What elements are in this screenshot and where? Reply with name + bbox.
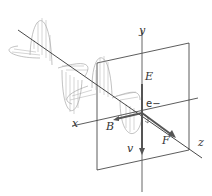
x-axis-label: x [72, 117, 79, 130]
x-axis [72, 98, 198, 126]
velocity-label: v [127, 142, 134, 155]
electric-field-label: E [144, 70, 153, 83]
v-arrowhead-icon [139, 148, 145, 155]
magnetic-field-wave [9, 46, 140, 104]
y-axis-label: y [138, 24, 146, 37]
z-axis [18, 30, 202, 158]
em-wave-diagram: y x z E B e− v F [0, 0, 212, 196]
electron-label: e− [146, 98, 161, 109]
magnetic-field-label: B [105, 120, 114, 133]
z-axis-label: z [197, 136, 204, 149]
force-label: F [161, 134, 170, 147]
magnetic-field-vector [116, 113, 142, 119]
